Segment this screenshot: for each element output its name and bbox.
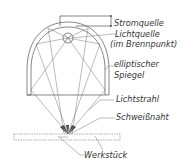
- label-power-source: Stromquelle: [114, 18, 164, 28]
- label-mirror: elliptischer: [114, 59, 160, 69]
- welding-diagram: Stromquelle Lichtquelle (im Brennpunkt) …: [0, 0, 186, 168]
- light-rays: [31, 28, 105, 134]
- label-light-beam: Lichtstrahl: [116, 94, 160, 104]
- power-wires: [60, 16, 112, 26]
- label-light-source: Lichtquelle: [115, 29, 160, 39]
- label-workpiece: Werkstück: [84, 150, 128, 160]
- label-weld-seam: Schweißnaht: [116, 112, 169, 122]
- label-light-source-focus: (im Brennpunkt): [110, 39, 177, 49]
- workpiece: [14, 134, 120, 140]
- label-mirror-2: Spiegel: [114, 70, 145, 80]
